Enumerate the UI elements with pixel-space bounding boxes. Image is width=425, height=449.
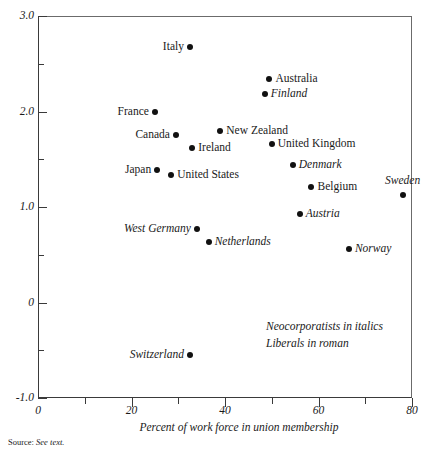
x-tick-label: 80 bbox=[392, 405, 425, 416]
y-tick-label: -1.0 bbox=[0, 392, 34, 403]
y-tick-label: 3.0 bbox=[0, 10, 34, 21]
legend-annotation: Neocorporatists in italics Liberals in r… bbox=[266, 318, 383, 352]
x-tick-label: 60 bbox=[299, 405, 339, 416]
data-point-marker bbox=[346, 246, 352, 252]
data-point-marker bbox=[217, 128, 223, 134]
x-axis-title-text: Percent of work force in union membershi… bbox=[79, 421, 338, 433]
x-tick-minor bbox=[85, 398, 86, 404]
y-tick-minor bbox=[38, 159, 44, 160]
data-point-label: Netherlands bbox=[215, 235, 271, 247]
data-point-label: Finland bbox=[271, 87, 307, 99]
data-point-label: Canada bbox=[0, 128, 170, 140]
x-tick-minor bbox=[272, 398, 273, 404]
source-note-label: Source: bbox=[8, 437, 34, 447]
data-point-label: Australia bbox=[275, 72, 317, 84]
x-tick-minor bbox=[178, 398, 179, 404]
y-tick-major bbox=[38, 303, 47, 304]
legend-line-1: Neocorporatists in italics bbox=[266, 318, 383, 335]
data-point-label: United States bbox=[177, 168, 239, 180]
data-point-label: Austria bbox=[306, 207, 340, 219]
data-point-label: Denmark bbox=[299, 158, 342, 170]
y-tick-major bbox=[38, 398, 47, 399]
x-tick-label: 40 bbox=[205, 405, 245, 416]
data-point-marker bbox=[152, 109, 158, 115]
x-tick-label: 0 bbox=[18, 405, 58, 416]
x-axis-title: Percent of work force in union membershi… bbox=[0, 421, 418, 433]
data-point-label: France bbox=[0, 105, 149, 117]
x-tick-label: 20 bbox=[112, 405, 152, 416]
data-point-marker bbox=[297, 211, 303, 217]
data-point-label: Italy bbox=[0, 40, 184, 52]
data-point-label: Japan bbox=[0, 163, 151, 175]
y-tick-minor bbox=[38, 255, 44, 256]
legend-line-2: Liberals in roman bbox=[266, 335, 383, 352]
data-point-label: West Germany bbox=[0, 222, 191, 234]
data-point-label: Norway bbox=[355, 242, 391, 254]
data-point-marker bbox=[194, 226, 200, 232]
data-point-marker bbox=[400, 192, 406, 198]
data-point-marker bbox=[269, 141, 275, 147]
source-note: Source: See text. bbox=[8, 437, 64, 447]
data-point-label: United Kingdom bbox=[278, 137, 356, 149]
data-point-label: Switzerland bbox=[0, 348, 184, 360]
data-point-label: New Zealand bbox=[226, 124, 288, 136]
data-point-marker bbox=[290, 162, 296, 168]
data-point-label: Ireland bbox=[198, 141, 231, 153]
y-tick-label: 1.0 bbox=[0, 201, 34, 212]
data-point-marker bbox=[187, 352, 193, 358]
y-tick-major bbox=[38, 16, 47, 17]
x-tick-minor bbox=[365, 398, 366, 404]
data-point-marker bbox=[187, 44, 193, 50]
y-tick-label: 0 bbox=[0, 297, 34, 308]
source-note-value: See text. bbox=[36, 437, 64, 447]
data-point-marker bbox=[154, 167, 160, 173]
data-point-marker bbox=[206, 239, 212, 245]
y-tick-minor bbox=[38, 64, 44, 65]
y-tick-major bbox=[38, 207, 47, 208]
data-point-label: Sweden bbox=[303, 174, 425, 186]
